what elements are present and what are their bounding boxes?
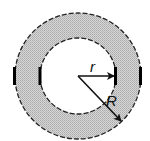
- diagram-canvas: r R: [0, 0, 150, 141]
- outer-radius-label: R: [106, 92, 117, 109]
- inner-radius-label: r: [90, 58, 96, 75]
- annulus-diagram: r R: [0, 0, 150, 141]
